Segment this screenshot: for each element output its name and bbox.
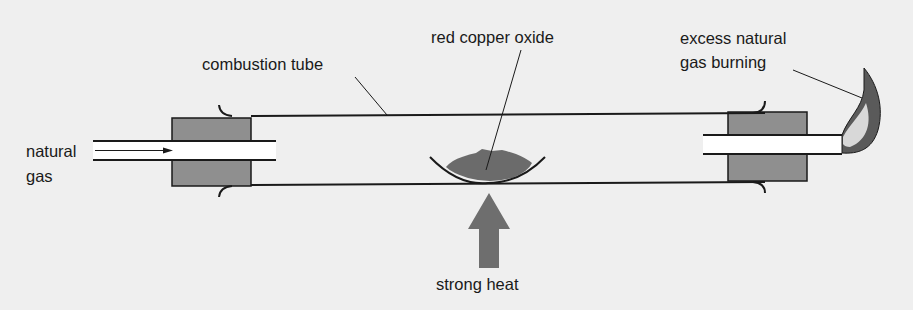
- label-natural-gas-line2: gas: [26, 164, 53, 189]
- label-red-copper-oxide: red copper oxide: [431, 25, 554, 50]
- label-excess-gas-line2: gas burning: [680, 50, 766, 75]
- outlet-tube: [703, 135, 842, 154]
- heat-arrow-icon: [468, 193, 510, 268]
- leader-flame: [793, 70, 862, 98]
- label-natural-gas-line1: natural: [26, 139, 76, 164]
- leader-combustion-tube: [355, 77, 387, 115]
- label-combustion-tube: combustion tube: [202, 52, 323, 77]
- left-flare-bottom: [219, 186, 232, 197]
- left-flare-top: [219, 105, 232, 116]
- label-strong-heat: strong heat: [436, 272, 519, 297]
- right-flare-top: [753, 101, 765, 113]
- label-excess-gas-line1: excess natural: [680, 26, 786, 51]
- combustion-tube-top: [251, 113, 765, 116]
- right-flare-bottom: [753, 182, 765, 193]
- combustion-tube-bottom: [251, 182, 765, 185]
